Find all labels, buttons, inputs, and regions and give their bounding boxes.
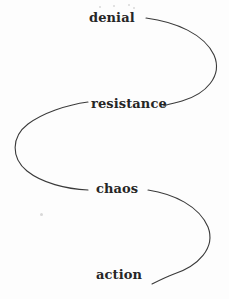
scan-speck [133, 7, 135, 9]
scan-speck [99, 6, 101, 8]
connector-denial-to-resistance [146, 18, 216, 106]
stage-label-denial: denial [89, 11, 135, 24]
connector-resistance-to-chaos [15, 102, 88, 190]
connector-chaos-to-action [148, 190, 210, 284]
scan-speck [113, 5, 115, 7]
stage-label-resistance: resistance [91, 97, 167, 110]
stage-label-action: action [96, 268, 142, 281]
curve-layer [0, 0, 229, 299]
scan-speck [128, 4, 130, 6]
stage-label-chaos: chaos [96, 182, 138, 195]
scan-speck [40, 213, 43, 216]
diagram-canvas: denial resistance chaos action [0, 0, 229, 299]
